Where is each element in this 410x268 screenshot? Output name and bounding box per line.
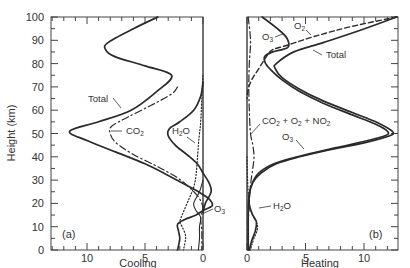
y-axis-tick-labels: 1009080706050403020100 <box>26 11 44 256</box>
label-o2: O2 <box>294 20 305 32</box>
panel-label-a: (a) <box>62 228 75 240</box>
cooling-tick-0: 0 <box>200 252 206 264</box>
label-co2-o2-no2: CO2 + O2 + NO2 <box>262 115 331 127</box>
heating-tick-0: 0 <box>244 252 250 264</box>
y-axis-title: Height (km) <box>5 105 17 162</box>
cooling-tick-10: 10 <box>81 252 93 264</box>
label-o3-cooling: O3 <box>214 203 225 215</box>
leader-o2 <box>306 30 311 35</box>
y-tick-label: 20 <box>32 197 44 209</box>
y-tick-label: 40 <box>32 151 44 163</box>
y-tick-label: 0 <box>38 244 44 256</box>
leader-h2o-cooling <box>187 137 195 143</box>
y-axis-ticks <box>51 17 58 250</box>
leader-total-cooling <box>113 98 121 108</box>
y-tick-label: 30 <box>32 174 44 186</box>
label-o3-heating: O3 <box>282 131 293 143</box>
leader-o3-top <box>275 34 283 37</box>
heating-curves <box>247 17 397 250</box>
curve-o2 <box>247 17 397 99</box>
label-total-heating: Total <box>326 49 346 60</box>
atmospheric-heating-cooling-chart: Height (km) 1009080706050403020100 10 5 … <box>0 0 410 268</box>
x-axis-title-cooling: Cooling <box>119 257 156 268</box>
panel-label-b: (b) <box>369 228 382 240</box>
label-co2: CO2 <box>126 125 144 137</box>
y-axis-ticks-right <box>391 17 398 250</box>
panel-b-heating: 0 5 10 O3 O2 Total CO2 + O2 + NO2 O3 H2O… <box>244 17 398 268</box>
y-tick-label: 90 <box>32 34 44 46</box>
label-h2o-cooling: H2O <box>172 125 190 137</box>
leader-total-heating <box>313 50 322 55</box>
x-axis-title-heating: Heating <box>301 257 339 268</box>
curve-h2o-thick <box>168 82 212 213</box>
panel-a-cooling: 1009080706050403020100 10 5 0 Total CO2 … <box>26 11 226 268</box>
y-tick-label: 60 <box>32 104 44 116</box>
label-total-cooling: Total <box>88 93 108 104</box>
y-tick-label: 70 <box>32 81 44 93</box>
y-tick-label: 80 <box>32 58 44 70</box>
y-tick-label: 10 <box>32 221 44 233</box>
y-tick-label: 100 <box>26 11 44 23</box>
heating-tick-10: 10 <box>358 252 370 264</box>
y-tick-label: 50 <box>32 128 44 140</box>
leader-o3-heating <box>296 140 304 149</box>
label-h2o-heating: H2O <box>273 200 291 212</box>
label-o3-top: O3 <box>262 31 273 43</box>
leader-h2o-heating <box>259 206 271 208</box>
leader-mix <box>250 124 260 135</box>
